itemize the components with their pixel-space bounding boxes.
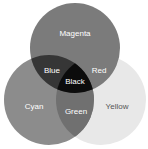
label-yellow: Yellow	[106, 102, 129, 111]
label-black: Black	[65, 77, 86, 86]
label-red: Red	[92, 66, 107, 75]
label-green: Green	[65, 107, 87, 116]
label-cyan: Cyan	[25, 102, 44, 111]
label-magenta: Magenta	[59, 29, 91, 38]
venn-diagram: Magenta Blue Red Black Cyan Green Yellow	[0, 0, 148, 149]
label-blue: Blue	[44, 66, 61, 75]
